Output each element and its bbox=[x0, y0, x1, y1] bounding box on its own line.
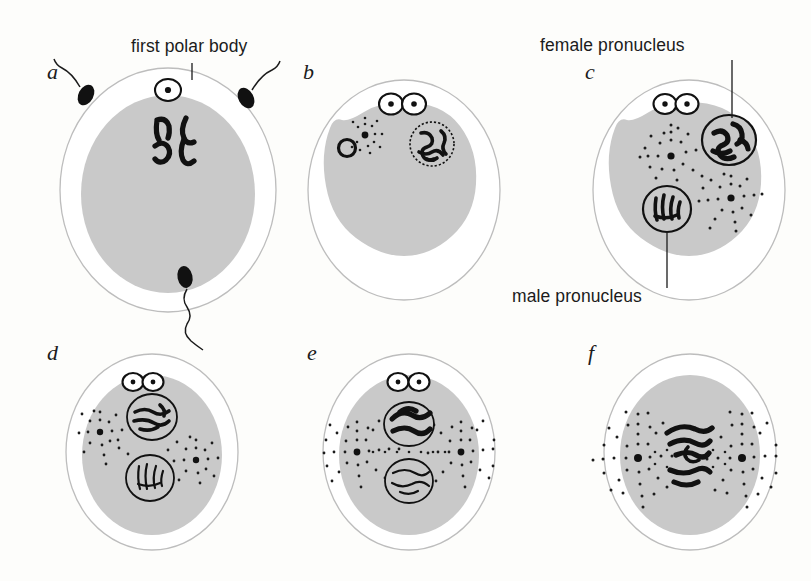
polar-body bbox=[155, 79, 181, 101]
polar-body bbox=[402, 94, 426, 115]
pronucleus-male bbox=[643, 186, 691, 232]
label-female-pronucleus: female pronucleus bbox=[540, 35, 685, 55]
polar-body bbox=[143, 373, 164, 391]
sperm bbox=[234, 61, 280, 111]
panel-b: b bbox=[303, 59, 500, 300]
pronucleus-male bbox=[385, 459, 433, 503]
panel-letter-f: f bbox=[588, 340, 597, 365]
pronucleus-female bbox=[702, 115, 756, 165]
polar-body bbox=[388, 373, 409, 391]
sperm bbox=[54, 59, 98, 108]
pronucleus-female bbox=[127, 394, 177, 440]
panel-c: c bbox=[585, 59, 785, 300]
panel-e: e bbox=[307, 340, 495, 550]
panel-letter-a: a bbox=[47, 59, 58, 84]
polar-body bbox=[676, 94, 699, 114]
panel-letter-c: c bbox=[585, 59, 595, 84]
polar-body bbox=[654, 94, 677, 114]
label-first-polar-body: first polar body bbox=[131, 36, 248, 56]
pronucleus-male bbox=[126, 455, 174, 501]
panel-letter-e: e bbox=[307, 340, 317, 365]
polar-body bbox=[123, 373, 144, 391]
pronucleus-female bbox=[384, 402, 434, 446]
label-male-pronucleus: male pronucleus bbox=[512, 286, 642, 306]
panel-d: d bbox=[47, 340, 238, 550]
polar-body bbox=[409, 373, 430, 391]
panel-a: a bbox=[47, 59, 280, 350]
fertilization-figure: a first polar body bbox=[0, 0, 811, 581]
panel-letter-b: b bbox=[303, 59, 314, 84]
figure-canvas: a first polar body bbox=[0, 0, 811, 581]
cytoplasm bbox=[339, 375, 479, 535]
panel-letter-d: d bbox=[47, 340, 59, 365]
polar-body bbox=[379, 94, 403, 115]
panel-f: f bbox=[588, 340, 778, 550]
